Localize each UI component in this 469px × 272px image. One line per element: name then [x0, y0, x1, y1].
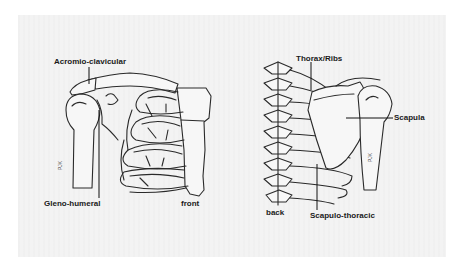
label-front-view: front: [181, 199, 199, 208]
back-view-illustration: [264, 62, 392, 205]
artist-signature-front: PJK: [57, 160, 63, 170]
label-thorax-ribs: Thorax/Ribs: [296, 54, 342, 63]
artist-signature-back: PJK: [367, 152, 373, 162]
humerus-back: [358, 86, 392, 190]
humerus: [66, 94, 100, 188]
front-view-illustration: [66, 73, 211, 196]
label-back-view: back: [266, 208, 284, 217]
spine: [264, 62, 292, 205]
sternum: [177, 88, 211, 196]
ribcage-front: [120, 90, 188, 193]
acromion: [70, 78, 96, 95]
label-scapula: Scapula: [394, 113, 425, 122]
label-acromio-clavicular: Acromio-clavicular: [54, 57, 126, 66]
label-gleno-humeral: Gleno-humeral: [44, 199, 100, 208]
shoulder-anatomy-drawing: PJK: [0, 0, 469, 272]
label-scapulo-thoracic: Scapulo-thoracic: [310, 211, 375, 220]
